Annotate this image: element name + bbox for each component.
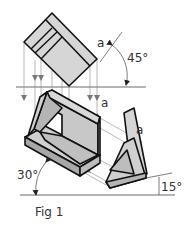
auxiliary-view-triangle: [106, 108, 147, 188]
angle-label-30: 30°: [17, 169, 38, 181]
pictorial-bracket: [25, 90, 100, 176]
figure-caption: Fig 1: [35, 206, 63, 218]
angle-label-45: 45°: [127, 52, 148, 64]
label-a-right: a: [136, 124, 143, 136]
label-a-middle: a: [101, 97, 108, 109]
angle-label-15: 15°: [161, 181, 182, 193]
label-a-top: a: [97, 37, 104, 49]
